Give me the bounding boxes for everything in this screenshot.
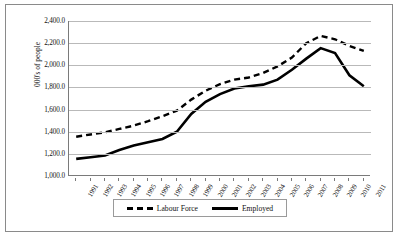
x-axis-tick-label: 1995: [144, 183, 158, 198]
x-axis-tick: [90, 178, 91, 181]
x-axis-tick-label: 2006: [302, 183, 316, 198]
x-axis-tick: [262, 178, 263, 181]
x-axis-tick-label: 1993: [115, 183, 129, 198]
legend-swatch-solid-icon: [212, 207, 238, 210]
gridline: [69, 110, 371, 111]
legend-swatch-dashed-icon: [127, 207, 153, 210]
x-axis-tick-label: 2009: [345, 183, 359, 198]
x-axis-tick-label: 2005: [288, 183, 302, 198]
y-axis-tick-labels: 2,400.02,200.02,000.01,800.01,600.01,400…: [0, 21, 65, 176]
x-axis-tick: [75, 178, 76, 181]
x-axis-tick-label: 2002: [245, 183, 259, 198]
x-axis-tick: [205, 178, 206, 181]
gridline: [69, 43, 371, 44]
chart-legend: Labour Force Employed: [113, 199, 287, 217]
y-axis-tick-label: 1,800.0: [44, 83, 65, 91]
x-axis-tick: [348, 178, 349, 181]
x-axis-tick: [161, 178, 162, 181]
x-axis-tick-label: 2007: [316, 183, 330, 198]
gridline: [69, 132, 371, 133]
y-axis-tick-label: 2,200.0: [44, 39, 65, 47]
x-axis-tick: [190, 178, 191, 181]
x-axis-tick: [334, 178, 335, 181]
x-axis-tick-label: 1998: [187, 183, 201, 198]
x-axis-tick: [320, 178, 321, 181]
series-line-labour-force: [76, 36, 364, 137]
legend-label: Employed: [242, 204, 273, 213]
x-axis-tick: [133, 178, 134, 181]
x-axis-tick: [118, 178, 119, 181]
gridline: [69, 87, 371, 88]
gridline: [69, 65, 371, 66]
x-axis-tick-label: 1997: [173, 183, 187, 198]
y-axis-tick-label: 2,400.0: [44, 17, 65, 25]
y-axis-tick-label: 1,200.0: [44, 150, 65, 158]
y-axis-tick-label: 1,000.0: [44, 172, 65, 180]
x-axis-tick: [219, 178, 220, 181]
legend-item-employed: Employed: [212, 204, 273, 213]
x-axis-tick-label: 2003: [259, 183, 273, 198]
x-axis-tick-label: 2008: [331, 183, 345, 198]
x-axis-tick-label: 1992: [101, 183, 115, 198]
gridline: [69, 154, 371, 155]
plot-area: [68, 21, 370, 176]
x-axis-tick: [147, 178, 148, 181]
legend-item-labour-force: Labour Force: [127, 204, 198, 213]
x-axis-tick: [248, 178, 249, 181]
x-axis-tick: [305, 178, 306, 181]
x-axis-tick: [104, 178, 105, 181]
x-axis-tick: [291, 178, 292, 181]
x-axis-tick-label: 1996: [158, 183, 172, 198]
y-axis-tick-label: 1,600.0: [44, 106, 65, 114]
x-axis-tick-label: 2000: [216, 183, 230, 198]
y-axis-tick-label: 2,000.0: [44, 61, 65, 69]
x-axis-tick-label: 1999: [201, 183, 215, 198]
x-axis-tick: [233, 178, 234, 181]
legend-label: Labour Force: [157, 204, 198, 213]
x-axis-tick-label: 1991: [86, 183, 100, 198]
chart-lines: [69, 21, 371, 176]
x-axis-tick: [176, 178, 177, 181]
y-axis-tick-label: 1,400.0: [44, 128, 65, 136]
x-axis-tick-label: 1994: [130, 183, 144, 198]
x-axis-tick-label: 2004: [273, 183, 287, 198]
x-axis-tick: [363, 178, 364, 181]
gridline: [69, 21, 371, 22]
chart-figure: 000's of people 2,400.02,200.02,000.01,8…: [0, 0, 403, 238]
x-axis-tick: [277, 178, 278, 181]
x-axis-tick-label: 2001: [230, 183, 244, 198]
